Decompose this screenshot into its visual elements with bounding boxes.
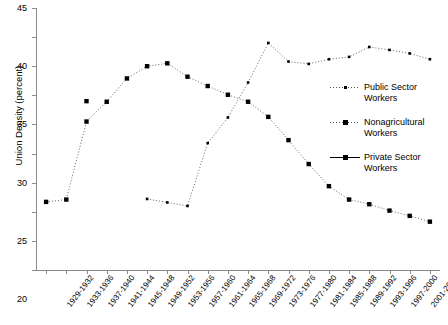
data-point <box>307 162 311 166</box>
data-point <box>226 93 230 97</box>
legend-label-line2: Workers <box>364 93 397 103</box>
data-point <box>247 81 250 84</box>
data-point <box>307 63 310 66</box>
data-point <box>227 116 230 119</box>
data-point <box>246 100 250 104</box>
data-point <box>408 52 411 55</box>
data-point <box>125 76 129 80</box>
data-point <box>185 75 189 79</box>
legend-key-nonagricultural <box>330 117 360 128</box>
legend-label-nonagricultural: Nonagricultural Workers <box>364 117 445 139</box>
y-axis-label: Union Density (percent) <box>13 36 24 196</box>
data-point <box>328 58 331 61</box>
data-point <box>146 198 149 201</box>
legend-label-line1: Private Sector <box>364 152 421 162</box>
data-point <box>348 56 351 59</box>
data-point <box>64 197 68 201</box>
data-point <box>287 60 290 63</box>
legend-label-line1: Nonagricultural <box>364 117 425 127</box>
data-point <box>267 42 270 45</box>
data-point <box>165 61 169 65</box>
data-point <box>84 119 88 123</box>
union-density-chart: Union Density (percent) 0510152025303540… <box>0 0 448 325</box>
data-point <box>84 99 88 103</box>
data-point <box>44 200 48 204</box>
data-point <box>145 64 149 68</box>
data-point <box>408 214 412 218</box>
legend-label-line1: Public Sector <box>364 82 417 92</box>
data-point <box>347 197 351 201</box>
legend-key-private-sector <box>330 152 360 163</box>
legend-label-public-sector: Public Sector Workers <box>364 82 445 104</box>
legend-item-private-sector: Private Sector Workers <box>330 152 445 174</box>
y-axis-tick-label: 40 <box>17 62 27 71</box>
data-point <box>388 49 391 52</box>
legend-key-public-sector <box>330 82 360 93</box>
data-point <box>286 138 290 142</box>
y-axis-tick-label: 30 <box>17 178 27 187</box>
y-axis-tick-label: 45 <box>17 4 27 13</box>
legend-item-public-sector: Public Sector Workers <box>330 82 445 104</box>
data-point <box>206 84 210 88</box>
data-point <box>166 201 169 204</box>
data-point <box>368 46 371 49</box>
data-point <box>387 208 391 212</box>
data-point <box>105 100 109 104</box>
y-axis-tick-label: 20 <box>17 295 27 304</box>
data-point <box>428 219 432 223</box>
legend-label-line2: Workers <box>364 163 397 173</box>
legend-item-nonagricultural: Nonagricultural Workers <box>330 117 445 139</box>
legend-label-line2: Workers <box>364 128 397 138</box>
legend-label-private-sector: Private Sector Workers <box>364 152 445 174</box>
y-axis-tick-label: 25 <box>17 236 27 245</box>
data-point <box>206 142 209 145</box>
data-point <box>266 115 270 119</box>
chart-legend: Public Sector Workers Nonagricultural Wo… <box>330 82 445 187</box>
data-point <box>429 58 432 61</box>
y-axis-tick-label: 35 <box>17 120 27 129</box>
data-point <box>186 205 189 208</box>
data-point <box>367 202 371 206</box>
